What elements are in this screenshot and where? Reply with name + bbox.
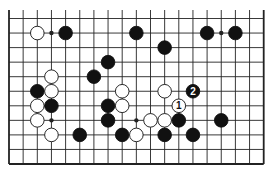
black-stone (87, 70, 101, 84)
white-stone (31, 114, 45, 128)
black-stone (101, 55, 115, 69)
black-stone (73, 128, 87, 142)
white-stone (158, 114, 172, 128)
white-stone (130, 128, 144, 142)
black-stone: 2 (186, 84, 200, 98)
star-point (219, 31, 223, 35)
move-number: 2 (190, 86, 196, 97)
white-stone (45, 84, 59, 98)
black-stone (59, 26, 73, 40)
star-point (49, 31, 53, 35)
white-stone (158, 84, 172, 98)
black-stone (130, 26, 144, 40)
black-stone (200, 26, 214, 40)
black-stone (214, 114, 228, 128)
black-stone (101, 99, 115, 113)
move-number: 1 (176, 100, 182, 111)
black-stone (45, 99, 59, 113)
black-stone (101, 114, 115, 128)
black-stone (115, 128, 129, 142)
star-point (49, 118, 53, 122)
white-stone (31, 26, 45, 40)
white-stone (115, 99, 129, 113)
white-stone (45, 70, 59, 84)
black-stone (158, 128, 172, 142)
black-stone (172, 114, 186, 128)
black-stone (158, 41, 172, 55)
black-stone (229, 26, 243, 40)
go-board: 21 (0, 0, 274, 178)
black-stone (31, 84, 45, 98)
black-stone (186, 128, 200, 142)
star-point (134, 118, 138, 122)
white-stone (144, 114, 158, 128)
white-stone (31, 99, 45, 113)
white-stone (45, 128, 59, 142)
white-stone: 1 (172, 99, 186, 113)
white-stone (115, 84, 129, 98)
